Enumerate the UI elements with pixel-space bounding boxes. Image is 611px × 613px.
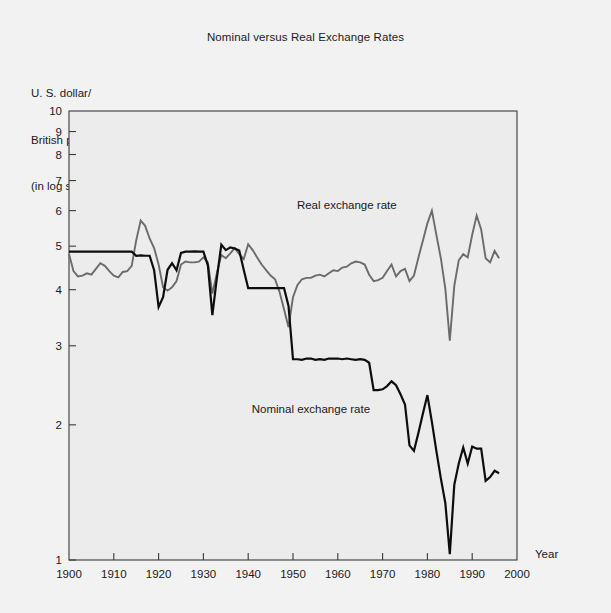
y-tick-label: 7 bbox=[56, 175, 62, 187]
x-tick-label: 1960 bbox=[325, 568, 351, 580]
x-tick-label: 1940 bbox=[235, 568, 261, 580]
y-tick-label: 3 bbox=[56, 340, 62, 352]
y-tick-label: 1 bbox=[56, 554, 62, 566]
y-tick-label: 4 bbox=[56, 284, 63, 296]
y-tick-label: 6 bbox=[56, 205, 62, 217]
x-tick-label: 1990 bbox=[459, 568, 485, 580]
chart-plot-area: 12345678910 1900191019201930194019501960… bbox=[0, 0, 611, 613]
y-tick-label: 5 bbox=[56, 240, 62, 252]
y-tick-label: 2 bbox=[56, 419, 62, 431]
x-tick-label: 1930 bbox=[191, 568, 217, 580]
x-tick-label: 1920 bbox=[146, 568, 172, 580]
x-tick-label: 1900 bbox=[56, 568, 82, 580]
x-tick-label: 1910 bbox=[101, 568, 127, 580]
series-annotation-nominal: Nominal exchange rate bbox=[252, 403, 370, 415]
x-tick-label: 1950 bbox=[280, 568, 306, 580]
x-tick-label: 2000 bbox=[504, 568, 530, 580]
x-tick-label: 1970 bbox=[370, 568, 396, 580]
y-tick-label: 9 bbox=[56, 126, 62, 138]
series-annotation-real: Real exchange rate bbox=[297, 199, 397, 211]
y-tick-label: 10 bbox=[49, 105, 62, 117]
x-tick-label: 1980 bbox=[415, 568, 441, 580]
y-tick-label: 8 bbox=[56, 149, 62, 161]
figure-canvas: Nominal versus Real Exchange Rates U. S.… bbox=[0, 0, 611, 613]
